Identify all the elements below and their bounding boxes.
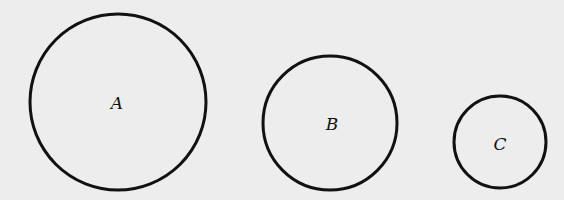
circle-b-group: B: [263, 56, 397, 190]
circle-b-label: B: [325, 114, 339, 134]
circle-c-label: C: [493, 134, 506, 154]
circles-diagram: A B C: [0, 0, 564, 200]
circle-c-group: C: [454, 96, 546, 188]
circle-a-group: A: [30, 14, 206, 190]
diagram-canvas: A B C: [0, 0, 564, 200]
circle-a-label: A: [109, 93, 123, 113]
